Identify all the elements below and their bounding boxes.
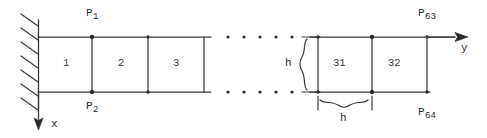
node-label-p64-base: P: [418, 106, 425, 118]
node-label-p64: P64: [418, 107, 435, 118]
node-label-p2: P2: [86, 101, 98, 112]
element-label-31: 31: [333, 58, 346, 69]
ellipsis-dot: [290, 90, 293, 93]
node-label-p1: P1: [86, 8, 98, 19]
element-label-1: 1: [63, 58, 69, 69]
dimension-label-h-vertical: h: [285, 58, 292, 69]
brace-curve: [300, 39, 307, 90]
brace-curve: [320, 100, 368, 107]
node-label-p2-sub: 2: [93, 105, 98, 115]
node-dot: [316, 90, 319, 93]
h-horizontal-brace: [318, 96, 372, 110]
ellipsis-dot: [274, 90, 277, 93]
fixed-support-wall: [21, 14, 39, 110]
ellipsis-dot: [274, 35, 277, 38]
node-label-p1-base: P: [86, 7, 93, 19]
beam-mesh-drawing: [0, 0, 487, 138]
ellipsis-dot: [258, 90, 261, 93]
ellipsis-dot: [226, 35, 229, 38]
axis-label-y: y: [461, 43, 468, 54]
x-axis: [34, 92, 43, 130]
element-label-32: 32: [388, 58, 401, 69]
node-label-p63-sub: 63: [425, 12, 436, 22]
node-dot: [146, 35, 149, 38]
node-dot-p1: [90, 35, 94, 39]
ellipsis-dots: [226, 35, 293, 93]
right-mesh-section: [310, 37, 455, 92]
node-dot: [316, 35, 319, 38]
ellipsis-dot: [242, 90, 245, 93]
node-label-p2-base: P: [86, 100, 93, 112]
node-label-p64-sub: 64: [425, 111, 436, 121]
ellipsis-dot: [258, 35, 261, 38]
beam-mesh-figure: P1 P2 P63 P64 1 2 3 31 32 h h x y: [0, 0, 487, 138]
node-label-p1-sub: 1: [93, 12, 98, 22]
y-axis-arrowhead: [455, 33, 468, 42]
node-label-p63: P63: [418, 8, 435, 19]
node-dot-p64: [370, 90, 374, 94]
node-dot: [425, 90, 428, 93]
dimension-label-h-horizontal: h: [340, 113, 347, 124]
node-dot-p2: [90, 90, 94, 94]
ellipsis-dot: [226, 90, 229, 93]
ellipsis-dot: [242, 35, 245, 38]
node-dot: [146, 90, 149, 93]
element-label-3: 3: [173, 58, 179, 69]
node-label-p63-base: P: [418, 7, 425, 19]
node-dot-p63: [370, 35, 374, 39]
ellipsis-dot: [290, 35, 293, 38]
wall-hatching: [21, 14, 38, 110]
element-label-2: 2: [118, 58, 124, 69]
h-vertical-brace: [300, 37, 320, 92]
y-axis: [427, 33, 468, 42]
axis-label-x: x: [51, 119, 58, 130]
